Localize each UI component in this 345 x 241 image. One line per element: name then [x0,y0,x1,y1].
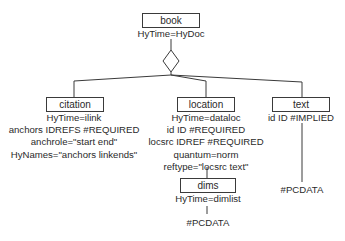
text-pcdata: #PCDATA [262,184,342,195]
element-dims-label: dims [197,180,218,191]
element-location: location [177,97,235,112]
element-citation-label: citation [59,99,91,110]
citation-attributes: HyTime=ilink anchors IDREFS #REQUIRED an… [4,112,144,161]
element-location-label: location [189,99,223,110]
dims-attributes: HyTime=dimlist [158,193,258,205]
element-dims: dims [180,178,236,193]
element-citation: citation [46,97,104,112]
element-book: book [142,13,200,28]
book-attributes: HyTime=HyDoc [121,28,221,40]
text-attributes: id ID #IMPLIED [256,112,345,124]
element-text: text [272,97,330,112]
element-book-label: book [160,15,182,26]
location-attributes: HyTime=dataloc id ID #REQUIRED locsrc ID… [146,112,266,173]
element-text-label: text [293,99,309,110]
dims-pcdata: #PCDATA [168,217,248,228]
choice-diamond-icon [163,50,179,72]
